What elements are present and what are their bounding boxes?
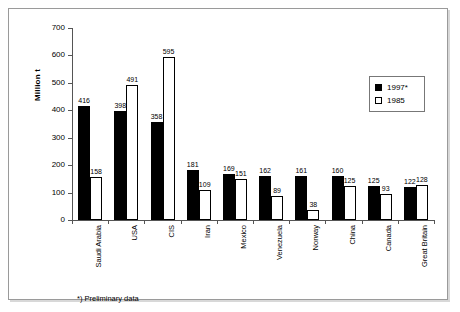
bar-saudi-arabia-1985 xyxy=(90,177,102,220)
bar-cis-1997 xyxy=(151,122,163,220)
bar-iran-1985 xyxy=(199,190,211,220)
bar-mexico-1997 xyxy=(223,174,235,220)
bar-norway-1985 xyxy=(307,210,319,220)
y-axis-tick-label: 400 xyxy=(31,105,65,114)
bar-value-label: 125 xyxy=(364,177,384,184)
bar-value-label: 160 xyxy=(328,167,348,174)
bar-value-label: 162 xyxy=(255,167,275,174)
x-axis-label-venezuela: Venezuela xyxy=(275,225,284,260)
bar-great-britain-1997 xyxy=(404,187,416,220)
legend-swatch-filled-icon xyxy=(375,84,382,91)
y-axis-tick-label: 500 xyxy=(31,78,65,87)
x-axis-tick xyxy=(217,220,218,224)
x-axis-tick xyxy=(434,220,435,224)
y-axis-tick xyxy=(68,28,72,29)
y-axis-tick-label: 300 xyxy=(31,133,65,142)
x-axis-label-saudi-arabia: Saudi Arabia xyxy=(94,225,103,268)
y-axis-line xyxy=(72,28,73,220)
legend-swatch-hollow-icon xyxy=(375,97,382,104)
legend-label-1985: 1985 xyxy=(387,96,405,105)
bar-usa-1997 xyxy=(114,111,126,220)
x-axis-label-great-britain: Great Britain xyxy=(420,225,429,267)
x-axis-label-china: China xyxy=(348,225,357,245)
x-axis-tick xyxy=(325,220,326,224)
bar-value-label: 161 xyxy=(291,167,311,174)
x-axis-label-usa: USA xyxy=(130,225,139,240)
bar-mexico-1985 xyxy=(235,179,247,220)
y-axis-tick-label: 0 xyxy=(31,215,65,224)
bar-value-label: 89 xyxy=(267,187,287,194)
legend-label-1997: 1997* xyxy=(387,83,408,92)
bar-usa-1985 xyxy=(126,85,138,220)
x-axis-tick xyxy=(253,220,254,224)
chart-frame: Million t 0100200300400500600700 4161583… xyxy=(8,8,448,300)
y-axis-tick-label: 700 xyxy=(31,23,65,32)
chart-legend: 1997* 1985 xyxy=(369,76,425,112)
bar-iran-1997 xyxy=(187,170,199,220)
y-axis-tick-label: 200 xyxy=(31,160,65,169)
x-axis-label-mexico: Mexico xyxy=(239,225,248,249)
bar-value-label: 181 xyxy=(183,161,203,168)
x-axis-tick xyxy=(181,220,182,224)
bar-value-label: 491 xyxy=(122,76,142,83)
x-axis-tick xyxy=(398,220,399,224)
legend-item-1997: 1997* xyxy=(375,81,419,94)
x-axis-label-cis: CIS xyxy=(167,225,176,238)
chart-screenshot: Million t 0100200300400500600700 4161583… xyxy=(0,0,460,312)
footnote-preliminary-data: *) Preliminary data xyxy=(77,294,139,303)
x-axis-tick xyxy=(144,220,145,224)
y-axis-tick xyxy=(68,55,72,56)
y-axis-tick xyxy=(68,138,72,139)
legend-item-1985: 1985 xyxy=(375,94,419,107)
bar-china-1985 xyxy=(344,186,356,220)
bar-value-label: 595 xyxy=(159,48,179,55)
bar-canada-1985 xyxy=(380,194,392,220)
x-axis-label-canada: Canada xyxy=(384,225,393,251)
y-axis-tick-label: 100 xyxy=(31,188,65,197)
bar-value-label: 128 xyxy=(412,176,432,183)
y-axis-tick xyxy=(68,83,72,84)
bar-cis-1985 xyxy=(163,57,175,220)
bar-venezuela-1985 xyxy=(271,196,283,220)
y-axis-tick xyxy=(68,110,72,111)
x-axis-tick xyxy=(108,220,109,224)
bar-venezuela-1997 xyxy=(259,176,271,220)
y-axis-tick xyxy=(68,193,72,194)
x-axis-tick xyxy=(289,220,290,224)
y-axis-tick-label: 600 xyxy=(31,50,65,59)
bar-value-label: 109 xyxy=(195,181,215,188)
x-axis-tick xyxy=(72,220,73,224)
bar-saudi-arabia-1997 xyxy=(78,106,90,220)
bar-value-label: 38 xyxy=(303,201,323,208)
bar-value-label: 93 xyxy=(376,185,396,192)
x-axis-label-norway: Norway xyxy=(311,225,320,250)
bar-value-label: 158 xyxy=(86,168,106,175)
x-axis-label-iran: Iran xyxy=(203,225,212,238)
bar-value-label: 125 xyxy=(340,177,360,184)
y-axis-title: Million t xyxy=(31,31,45,101)
chart-plot-area: Million t 0100200300400500600700 4161583… xyxy=(9,9,447,299)
y-axis-tick xyxy=(68,165,72,166)
bar-value-label: 151 xyxy=(231,170,251,177)
x-axis-tick xyxy=(362,220,363,224)
bar-value-label: 416 xyxy=(74,97,94,104)
bar-great-britain-1985 xyxy=(416,185,428,220)
bar-norway-1997 xyxy=(295,176,307,220)
